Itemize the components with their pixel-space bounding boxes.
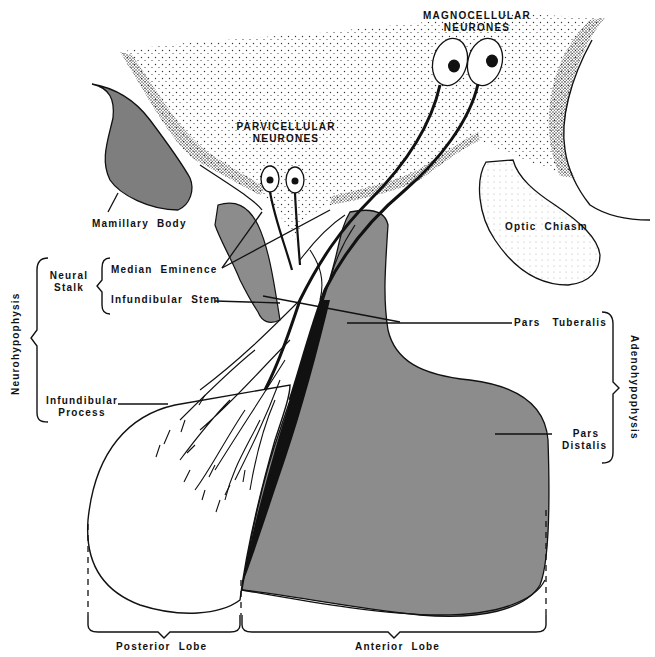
label-line: Distalis <box>562 440 607 452</box>
pars-tuberalis-shape <box>215 203 280 322</box>
pars-tuberalis-label: Pars Tuberalis <box>514 317 607 329</box>
neurohypophysis-label: Neurohypophysis <box>10 293 22 395</box>
label-line: Infundibular <box>42 395 122 407</box>
neural-stalk-label: Neural Stalk <box>44 270 94 294</box>
anterior-lobe-shape <box>242 210 549 616</box>
optic-chiasm-label: Optic Chiasm <box>505 221 588 233</box>
pituitary-diagram: MAGNOCELLULAR NEURONES PARVICELLULAR NEU… <box>0 0 655 657</box>
label-line: NEURONES <box>412 22 542 34</box>
magnocellular-neurones-label: MAGNOCELLULAR NEURONES <box>412 10 542 34</box>
label-line: PARVICELLULAR <box>226 121 346 133</box>
anterior-lobe-label: Anterior Lobe <box>355 641 440 653</box>
label-line: MAGNOCELLULAR <box>412 10 542 22</box>
infundibular-stem-label: Infundibular Stem <box>111 294 220 306</box>
posterior-lobe-label: Posterior Lobe <box>116 641 207 653</box>
label-line: NEURONES <box>226 133 346 145</box>
label-line: Pars <box>562 428 607 440</box>
infundibular-process-label: Infundibular Process <box>42 395 122 419</box>
pars-distalis-label: Pars Distalis <box>562 428 607 452</box>
mamillary-body-label: Mamillary Body <box>92 218 187 230</box>
median-eminence-label: Median Eminence <box>111 264 217 276</box>
parvicellular-neurones-label: PARVICELLULAR NEURONES <box>226 121 346 145</box>
adenohypophysis-label: Adenohypophysis <box>628 335 640 440</box>
label-line: Neural <box>44 270 94 282</box>
label-line: Process <box>42 407 122 419</box>
label-line: Stalk <box>44 282 94 294</box>
